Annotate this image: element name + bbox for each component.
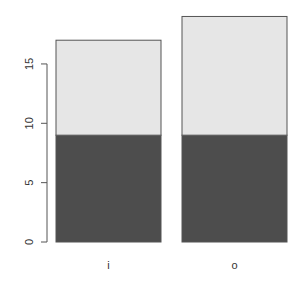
y-tick-label: 0 <box>23 239 35 245</box>
bar-segment-segment-1 <box>56 135 161 242</box>
x-label-i: i <box>107 259 109 271</box>
x-axis-labels: io <box>107 259 237 271</box>
y-tick-label: 5 <box>23 180 35 186</box>
stacked-bar-chart: 051015 io <box>0 0 304 281</box>
bar-i <box>56 40 161 242</box>
x-label-o: o <box>231 259 237 271</box>
bar-o <box>182 16 287 242</box>
bar-segment-segment-1 <box>182 135 287 242</box>
y-axis: 051015 <box>23 58 47 245</box>
bar-segment-segment-2 <box>56 40 161 135</box>
bars <box>56 16 287 242</box>
y-tick-label: 10 <box>23 117 35 129</box>
bar-segment-segment-2 <box>182 16 287 135</box>
y-tick-label: 15 <box>23 58 35 70</box>
